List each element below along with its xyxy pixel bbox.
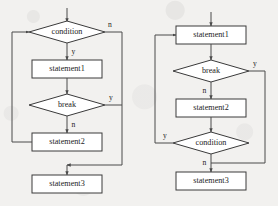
flowchart-figure: condition n y statement1 break y n sta (0, 0, 278, 206)
node-r-break-label: break (202, 66, 221, 75)
node-l-break-label: break (58, 100, 77, 109)
edge-label-l-break-true: y (109, 93, 113, 102)
edge-label-r-condition-true: y (163, 131, 167, 140)
node-l-statement2-label: statement2 (49, 137, 84, 146)
edge-label-l-condition-true: y (72, 47, 76, 56)
node-r-statement2-label: statement2 (193, 103, 228, 112)
edge-l-statement2-to-condition (12, 32, 32, 142)
node-r-statement1-label: statement1 (193, 30, 228, 39)
node-l-statement1-label: statement1 (49, 64, 84, 73)
flowchart-canvas: condition n y statement1 break y n sta (0, 0, 278, 206)
edge-label-r-condition-false: n (203, 158, 207, 167)
edge-label-l-break-false: n (72, 120, 76, 129)
node-l-statement3-label: statement3 (49, 179, 84, 188)
edge-label-r-break-false: n (203, 86, 207, 95)
node-r-statement3-label: statement3 (193, 176, 228, 185)
edge-label-l-condition-false: n (108, 20, 112, 29)
edge-label-r-break-true: y (253, 59, 257, 68)
node-r-condition-label: condition (196, 138, 227, 147)
flowchart-left: condition n y statement1 break y n sta (12, 8, 122, 193)
node-l-condition-label: condition (52, 27, 83, 36)
flowchart-right: statement1 break y n statement2 conditio… (155, 12, 265, 190)
edge-r-condition-true (155, 35, 176, 143)
